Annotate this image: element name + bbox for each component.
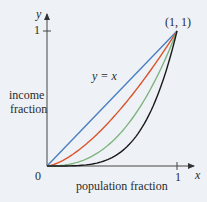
series-lines [47, 31, 177, 166]
y-axis-var-label: y [36, 8, 41, 21]
series-line-1 [47, 31, 177, 166]
y-axis-label-line1: income [9, 89, 44, 102]
x-tick-label-1: 1 [175, 171, 181, 184]
y-tick-label-1: 1 [34, 24, 40, 37]
diagonal-label: y = x [92, 70, 117, 83]
x-axis-var-label: x [195, 169, 200, 182]
y-axis-label-line2: fraction [10, 103, 47, 116]
lorenz-chart: y 1 (1, 1) y = x income fraction 0 1 x p… [0, 0, 207, 202]
origin-label: 0 [35, 170, 41, 183]
x-axis-label: population fraction [76, 180, 168, 193]
point-label: (1, 1) [165, 16, 191, 29]
